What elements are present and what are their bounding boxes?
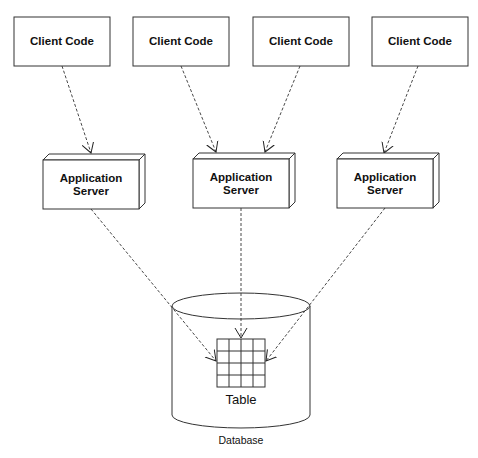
connector-client1-server1 bbox=[62, 66, 91, 153]
database-label: Database bbox=[219, 434, 264, 446]
connector-client2-server2 bbox=[181, 66, 216, 152]
server-label-line2: Server bbox=[367, 184, 403, 196]
client-code-label: Client Code bbox=[30, 35, 94, 47]
application-server-node-2: Application Server bbox=[193, 153, 295, 208]
architecture-diagram: Client Code Client Code Client Code Clie… bbox=[0, 0, 478, 458]
server-label-line1: Application bbox=[210, 171, 273, 183]
connector-client3-server2 bbox=[265, 66, 300, 152]
table-label: Table bbox=[225, 392, 256, 407]
connector-server1-table bbox=[91, 209, 216, 361]
client-code-label: Client Code bbox=[388, 35, 452, 47]
application-server-node-1: Application Server bbox=[43, 154, 145, 209]
client-code-box-1: Client Code bbox=[14, 17, 110, 66]
client-code-box-3: Client Code bbox=[253, 17, 349, 66]
client-code-label: Client Code bbox=[269, 35, 333, 47]
client-code-label: Client Code bbox=[149, 35, 213, 47]
connector-client4-server3 bbox=[384, 66, 418, 153]
server-label-line2: Server bbox=[73, 185, 109, 197]
application-server-node-3: Application Server bbox=[337, 153, 439, 208]
server-label-line1: Application bbox=[354, 171, 417, 183]
server-label-line1: Application bbox=[60, 172, 123, 184]
table-grid-icon bbox=[217, 339, 265, 387]
client-code-box-4: Client Code bbox=[372, 17, 468, 66]
client-code-box-2: Client Code bbox=[133, 17, 229, 66]
client-server-connectors bbox=[62, 66, 418, 153]
server-label-line2: Server bbox=[223, 184, 259, 196]
